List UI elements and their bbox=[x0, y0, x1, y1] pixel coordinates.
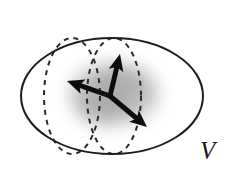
figure-container: V bbox=[0, 0, 231, 173]
diagram-canvas bbox=[0, 0, 231, 173]
volume-label-V: V bbox=[200, 138, 215, 163]
